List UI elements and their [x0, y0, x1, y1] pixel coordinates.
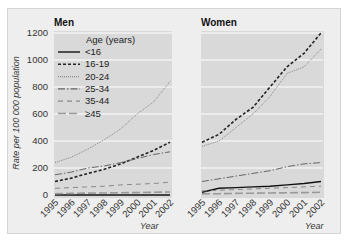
legend-label: <16 — [85, 46, 101, 57]
x-axis-label-women: Year — [305, 221, 325, 231]
y-axis-label: Rate per 100 000 population — [11, 56, 21, 170]
legend-label: 25-34 — [85, 83, 109, 94]
legend-label: 16-19 — [85, 58, 109, 69]
y-tick-label: 600 — [32, 108, 48, 119]
y-tick-label: 800 — [32, 81, 48, 92]
y-tick-label: 200 — [32, 162, 48, 173]
y-tick-label: 0 — [43, 189, 48, 200]
y-tick-label: 400 — [32, 135, 48, 146]
y-tick-label: 1000 — [27, 54, 48, 65]
x-ticks-men: 19951996199719981999200020012002 — [38, 197, 176, 220]
x-ticks-women: 19951996199719981999200020012002 — [185, 197, 327, 220]
x-tick-label: 2002 — [304, 197, 327, 220]
chart-svg: Rate per 100 000 population Men 02004006… — [0, 0, 349, 242]
legend-label: 35-44 — [85, 95, 109, 106]
panel-title-men: Men — [54, 17, 74, 28]
panel-men: Men 020040060080010001200 19951996199719… — [27, 17, 176, 231]
legend-label: 20-24 — [85, 71, 109, 82]
y-tick-label: 1200 — [27, 27, 48, 38]
y-ticks-men: 020040060080010001200 — [27, 27, 48, 200]
legend-label: ≥45 — [85, 108, 101, 119]
panel-title-women: Women — [201, 17, 237, 28]
x-axis-label-men: Year — [140, 221, 160, 231]
panel-women: Women 19951996199719981999200020012002 Y… — [185, 17, 327, 231]
x-tick-label: 2002 — [153, 197, 176, 220]
legend-title: Age (years) — [86, 34, 135, 45]
